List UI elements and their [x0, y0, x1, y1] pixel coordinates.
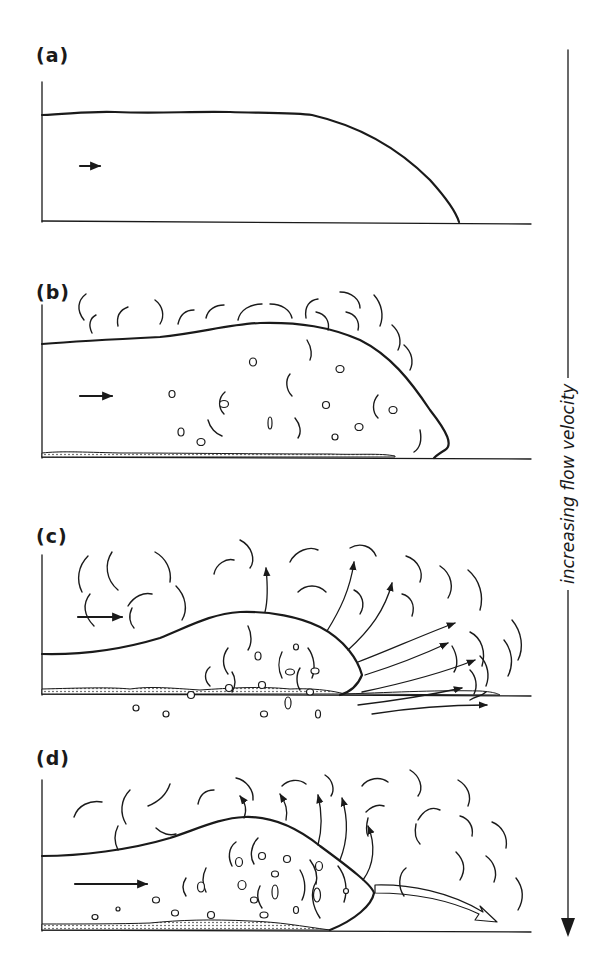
turbulent-eddies — [74, 770, 522, 910]
panel-d — [42, 770, 531, 932]
figure-canvas — [0, 0, 607, 956]
panel-c — [42, 540, 531, 718]
forward-jet-arrow-icon — [375, 885, 497, 922]
velocity-axis-label: increasing flow velocity — [558, 378, 578, 590]
suspended-clasts — [169, 358, 397, 446]
panel-b-flow-outline — [42, 323, 449, 458]
turbulent-eddies — [79, 292, 421, 452]
basal-deposit — [42, 920, 330, 930]
basal-deposit — [42, 452, 395, 457]
panel-a-floor — [42, 221, 531, 224]
arrow-down-icon — [561, 918, 575, 937]
panel-a-label: (a) — [36, 44, 69, 66]
panel-b-label: (b) — [36, 281, 70, 303]
suspended-clasts — [92, 853, 349, 920]
panel-c-label: (c) — [36, 525, 68, 547]
inner-eddies — [183, 838, 346, 918]
panel-b — [42, 292, 531, 459]
suspended-clasts — [133, 644, 321, 718]
panel-a-flow-outline — [42, 112, 459, 222]
panel-d-label: (d) — [36, 747, 70, 769]
panel-c-flow-outline — [42, 612, 362, 695]
panel-a — [42, 82, 531, 224]
